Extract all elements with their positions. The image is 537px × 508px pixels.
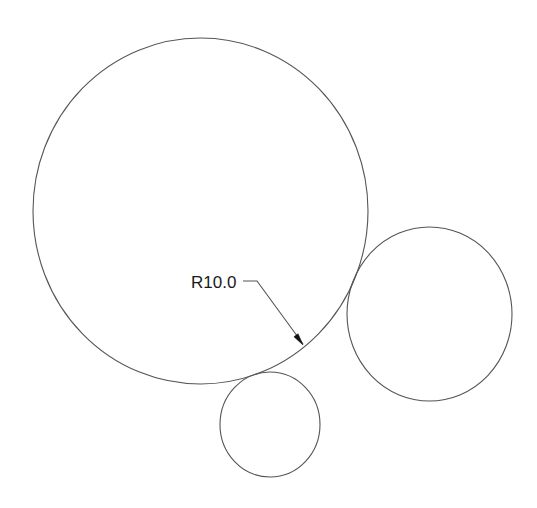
- radius-dimension-label: R10.0: [191, 273, 236, 292]
- large-circle[interactable]: [33, 38, 368, 384]
- small-circle[interactable]: [220, 372, 320, 477]
- cad-drawing-canvas: R10.0: [0, 0, 537, 508]
- dimension-arrowhead-icon: [294, 334, 303, 345]
- dimension-leader-line: [243, 281, 303, 344]
- drawing-svg: R10.0: [0, 0, 537, 508]
- right-circle[interactable]: [347, 227, 512, 401]
- radius-dimension[interactable]: R10.0: [191, 273, 303, 345]
